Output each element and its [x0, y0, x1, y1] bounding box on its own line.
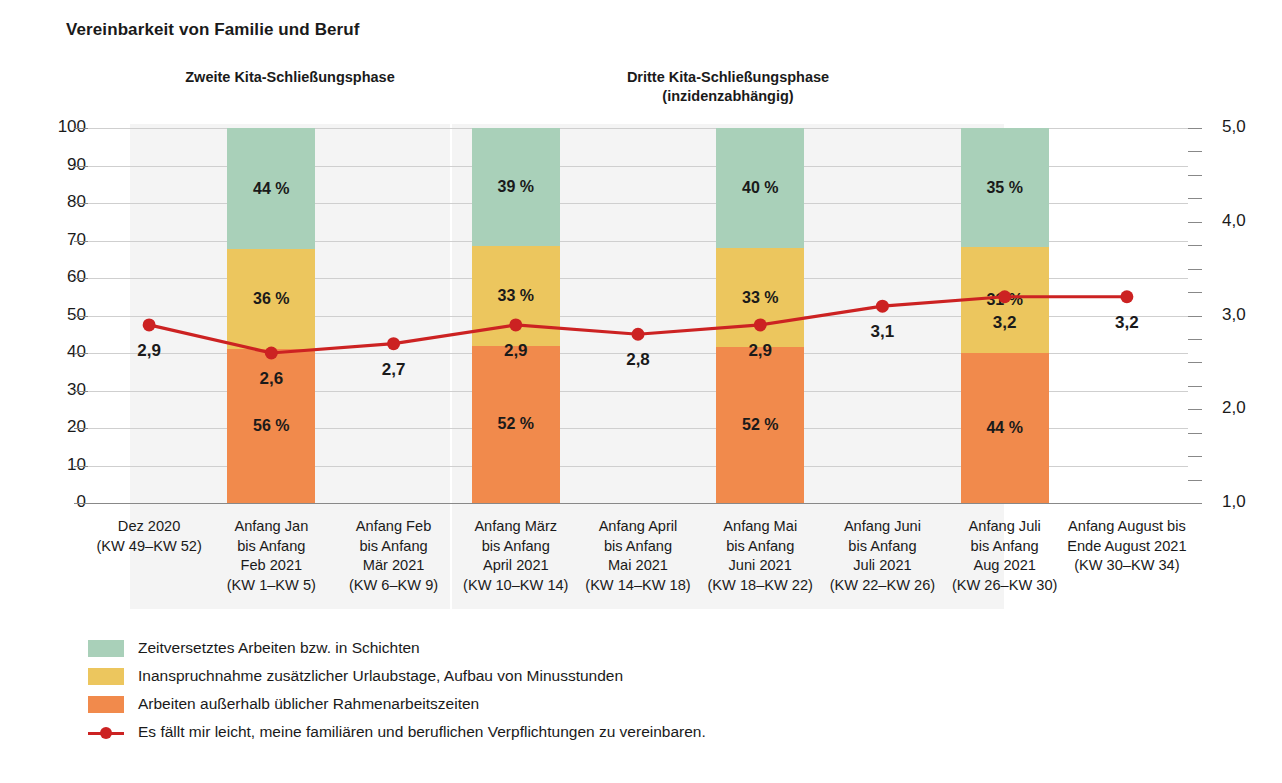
legend: Zeitversetztes Arbeiten bzw. in Schichte… [88, 634, 706, 746]
x-axis-label: Anfang August bisEnde August 2021(KW 30–… [1062, 517, 1192, 576]
y-tickmark-left [74, 503, 88, 504]
y-tickmark-right [1188, 339, 1202, 340]
y-tickmark-right [1188, 245, 1202, 246]
y-tick-left: 0 [26, 492, 86, 512]
line-value-label: 3,1 [837, 322, 927, 342]
bar-segment[interactable]: 33 % [716, 248, 804, 347]
y-tickmark-right [1188, 151, 1202, 152]
legend-item[interactable]: Es fällt mir leicht, meine familiären un… [88, 718, 706, 746]
line-value-label: 2,8 [593, 350, 683, 370]
legend-item[interactable]: Inanspruchnahme zusätzlicher Urlaubstage… [88, 662, 706, 690]
green-swatch [88, 640, 124, 657]
stacked-bar[interactable]: 52 %33 %39 % [472, 128, 560, 503]
x-axis-label: Anfang Märzbis AnfangApril 2021(KW 10–KW… [451, 517, 581, 595]
x-axis-label: Anfang Febbis AnfangMär 2021(KW 6–KW 9) [328, 517, 458, 595]
bar-segment[interactable]: 44 % [961, 353, 1049, 503]
x-axis-label: Anfang Junibis AnfangJuli 2021(KW 22–KW … [817, 517, 947, 595]
bar-segment[interactable]: 35 % [961, 128, 1049, 247]
y-tickmark-right [1188, 386, 1202, 387]
y-tick-left: 20 [26, 417, 86, 437]
yellow-swatch [88, 668, 124, 685]
line-value-label: 3,2 [1082, 313, 1172, 333]
y-tickmark-left [74, 428, 88, 429]
bar-segment[interactable]: 44 % [227, 128, 315, 249]
y-tick-left: 100 [26, 117, 86, 137]
y-tickmark-right [1188, 362, 1202, 363]
bar-segment[interactable]: 33 % [472, 246, 560, 346]
stacked-bar[interactable]: 52 %33 %40 % [716, 128, 804, 503]
y-tickmark-left [74, 353, 88, 354]
line-marker-icon [88, 724, 124, 741]
bar-segment[interactable]: 52 % [472, 346, 560, 503]
legend-label: Arbeiten außerhalb üblicher Rahmenarbeit… [138, 695, 479, 713]
line-value-label: 2,9 [715, 341, 805, 361]
y-tickmark-right [1188, 503, 1202, 504]
y-tickmark-right [1188, 292, 1202, 293]
y-tick-left: 10 [26, 455, 86, 475]
line-value-label: 3,2 [960, 313, 1050, 333]
y-tick-right: 4,0 [1222, 211, 1282, 231]
y-tickmark-right [1188, 316, 1202, 317]
gridline [88, 503, 1188, 504]
line-value-label: 2,6 [226, 369, 316, 389]
y-tick-left: 60 [26, 267, 86, 287]
y-tickmark-left [74, 466, 88, 467]
y-tickmark-right [1188, 222, 1202, 223]
y-tick-left: 30 [26, 380, 86, 400]
y-tickmark-left [74, 278, 88, 279]
legend-label: Inanspruchnahme zusätzlicher Urlaubstage… [138, 667, 623, 685]
y-tickmark-left [74, 166, 88, 167]
phase-label-1: Zweite Kita-Schließungsphase [130, 68, 450, 87]
y-tickmark-right [1188, 198, 1202, 199]
x-axis-label: Dez 2020(KW 49–KW 52) [84, 517, 214, 556]
y-tickmark-right [1188, 409, 1202, 410]
phase-label-2: Dritte Kita-Schließungsphase(inzidenzabh… [452, 68, 1004, 106]
bar-segment[interactable]: 31 % [961, 247, 1049, 353]
line-value-label: 2,7 [349, 360, 439, 380]
y-tickmark-right [1188, 480, 1202, 481]
y-tickmark-left [74, 391, 88, 392]
chart-figure: Vereinbarkeit von Familie und Beruf Zwei… [0, 0, 1282, 783]
legend-item[interactable]: Arbeiten außerhalb üblicher Rahmenarbeit… [88, 690, 706, 718]
line-value-label: 2,9 [471, 341, 561, 361]
y-tick-right: 3,0 [1222, 305, 1282, 325]
y-tickmark-left [74, 316, 88, 317]
bar-segment[interactable]: 36 % [227, 249, 315, 348]
x-axis-label: Anfang Aprilbis AnfangMai 2021(KW 14–KW … [573, 517, 703, 595]
y-tick-left: 50 [26, 305, 86, 325]
y-tickmark-left [74, 241, 88, 242]
x-axis-label: Anfang Janbis AnfangFeb 2021(KW 1–KW 5) [206, 517, 336, 595]
y-tickmark-right [1188, 433, 1202, 434]
legend-label: Zeitversetztes Arbeiten bzw. in Schichte… [138, 639, 420, 657]
bar-segment[interactable]: 52 % [716, 347, 804, 503]
y-tickmark-right [1188, 456, 1202, 457]
y-tickmark-left [74, 203, 88, 204]
y-tick-right: 1,0 [1222, 492, 1282, 512]
page-title: Vereinbarkeit von Familie und Beruf [66, 20, 360, 40]
y-tick-right: 5,0 [1222, 117, 1282, 137]
y-tickmark-right [1188, 128, 1202, 129]
x-axis-label: Anfang Julibis AnfangAug 2021(KW 26–KW 3… [940, 517, 1070, 595]
y-tick-left: 90 [26, 155, 86, 175]
legend-label: Es fällt mir leicht, meine familiären un… [138, 723, 706, 741]
y-tick-right: 2,0 [1222, 398, 1282, 418]
line-value-label: 2,9 [104, 341, 194, 361]
y-tick-left: 40 [26, 342, 86, 362]
y-tickmark-right [1188, 175, 1202, 176]
stacked-bar[interactable]: 56 %36 %44 % [227, 128, 315, 503]
y-tick-left: 80 [26, 192, 86, 212]
bar-segment[interactable]: 39 % [472, 128, 560, 246]
y-tickmark-right [1188, 269, 1202, 270]
x-axis-label: Anfang Maibis AnfangJuni 2021(KW 18–KW 2… [695, 517, 825, 595]
orange-swatch [88, 696, 124, 713]
y-tick-left: 70 [26, 230, 86, 250]
bar-segment[interactable]: 40 % [716, 128, 804, 248]
y-tickmark-left [74, 128, 88, 129]
legend-item[interactable]: Zeitversetztes Arbeiten bzw. in Schichte… [88, 634, 706, 662]
